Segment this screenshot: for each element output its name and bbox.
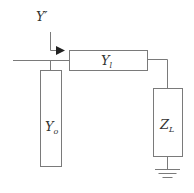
load-wire <box>148 60 168 89</box>
input-admittance-label: Y′ <box>36 10 48 23</box>
load-impedance-label: ZL <box>160 118 174 134</box>
series-admittance-label: Yl <box>101 54 112 70</box>
circuit-schematic <box>0 0 194 193</box>
circuit-diagram: Y′ Yl Yo ZL <box>0 0 194 193</box>
shunt-admittance-label: Yo <box>45 120 58 136</box>
arrow-icon <box>56 46 65 55</box>
ground-icon <box>155 170 180 178</box>
